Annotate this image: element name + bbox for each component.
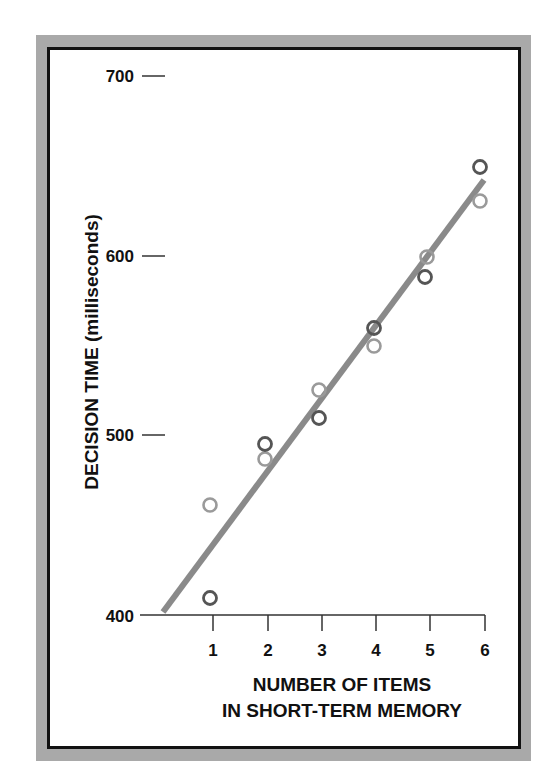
x-tick-label: 1 [208,641,217,660]
data-point [313,384,326,397]
x-tick-label: 3 [317,641,326,660]
y-axis-title: DECISION TIME (milliseconds) [81,214,102,490]
y-axis: 700 600 500 400 [106,67,165,626]
data-point [259,453,272,466]
y-tick-label: 700 [106,67,134,86]
data-point [204,499,217,512]
x-axis: 1 2 3 4 5 6 [140,615,490,660]
x-tick-label: 5 [425,641,434,660]
data-point [368,340,381,353]
data-point [474,195,487,208]
series-dark [204,161,487,605]
data-point [419,271,432,284]
data-point [259,438,272,451]
x-tick-label: 6 [480,641,489,660]
x-tick-label: 4 [371,641,381,660]
data-point [474,161,487,174]
y-tick-label: 400 [106,607,134,626]
scatter-chart: 700 600 500 400 DECISION TIME (milliseco… [0,0,554,780]
x-axis-title-line-1: NUMBER OF ITEMS [253,674,431,695]
series-light [204,195,487,512]
data-point [204,592,217,605]
y-tick-label: 600 [106,247,134,266]
y-tick-label: 500 [106,426,134,445]
x-axis-title-line-2: IN SHORT-TERM MEMORY [222,700,462,721]
data-point [313,412,326,425]
x-tick-label: 2 [263,641,272,660]
